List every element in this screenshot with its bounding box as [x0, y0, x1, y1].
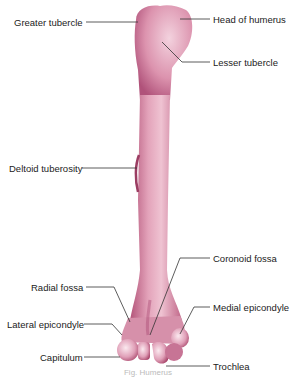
label-deltoid-tuberosity: Deltoid tuberosity	[9, 163, 82, 174]
label-coronoid-fossa: Coronoid fossa	[213, 253, 277, 264]
label-greater-tubercle: Greater tubercle	[14, 17, 83, 28]
proximal-humerus	[135, 5, 193, 100]
figure-caption: Fig. Humerus	[0, 368, 296, 377]
label-radial-fossa: Radial fossa	[31, 282, 83, 293]
label-lesser-tubercle: Lesser tubercle	[213, 57, 278, 68]
label-medial-epicondyle: Medial epicondyle	[213, 302, 289, 313]
label-capitulum: Capitulum	[40, 352, 83, 363]
label-head-of-humerus: Head of humerus	[213, 14, 286, 25]
label-lateral-epicondyle: Lateral epicondyle	[7, 319, 84, 330]
humerus-shaft	[130, 95, 182, 320]
